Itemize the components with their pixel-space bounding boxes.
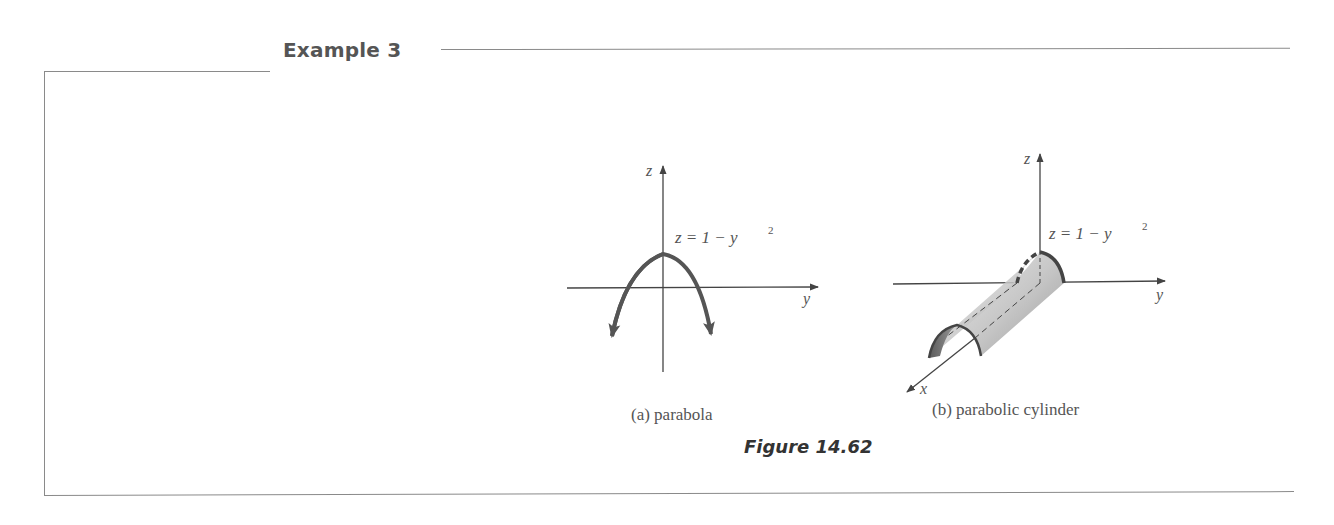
figure-title: Figure 14.62 bbox=[744, 436, 872, 457]
panel-b-parabolic-cylinder: z y x z = 1 − y 2 bbox=[893, 150, 1165, 397]
cylinder-surface bbox=[957, 252, 1064, 356]
equation-b-exponent: 2 bbox=[1142, 220, 1148, 232]
equation-a-exponent: 2 bbox=[768, 224, 774, 236]
panel-a-parabola: z y z = 1 − y 2 bbox=[567, 162, 818, 372]
y-axis-label: y bbox=[801, 290, 811, 308]
caption-b: (b) parabolic cylinder bbox=[932, 400, 1079, 420]
parabola-curve bbox=[612, 254, 711, 336]
y-axis-label: y bbox=[1154, 286, 1164, 304]
figure-14-62: z y z = 1 − y 2 z y x z = 1 − y 2 bbox=[0, 0, 1334, 525]
z-axis-label: z bbox=[645, 162, 653, 179]
y-axis bbox=[567, 287, 818, 288]
z-axis-label: z bbox=[1023, 150, 1031, 167]
equation-a: z = 1 − y bbox=[674, 228, 738, 247]
x-axis-label: x bbox=[919, 380, 927, 397]
caption-a: (a) parabola bbox=[631, 405, 713, 425]
equation-b: z = 1 − y bbox=[1048, 224, 1112, 243]
